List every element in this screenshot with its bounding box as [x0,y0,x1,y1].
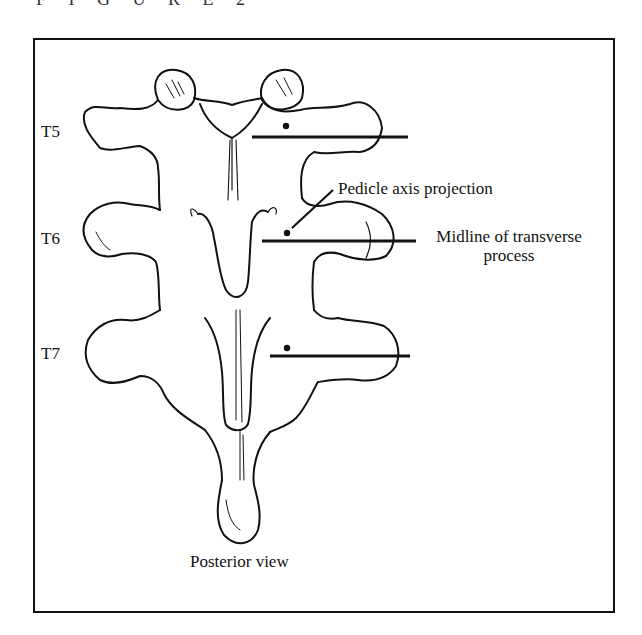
midline-label-line2: process [424,247,594,264]
figure-caption: Posterior view [190,553,289,570]
level-label-t6: T6 [41,230,60,247]
vertebra-t7 [86,310,399,543]
midline-label-line1: Midline of transverse [424,228,594,245]
pedicle-dot-t5 [283,123,289,129]
pedicle-dot-t6 [284,230,290,236]
level-label-t5: T5 [41,123,60,140]
pedicle-dot-t7 [284,345,290,351]
level-label-t7: T7 [41,345,60,362]
midline-transverse-label: Midline of transverse process [424,228,594,264]
pedicle-axis-leader [292,190,333,228]
pedicle-axis-label: Pedicle axis projection [338,180,493,197]
vertebra-t6 [83,198,393,310]
vertebrae-illustration [0,0,642,635]
